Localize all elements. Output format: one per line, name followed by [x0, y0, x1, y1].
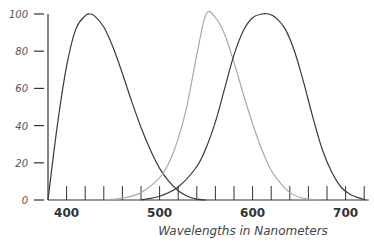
y-tick-label: 100 [9, 9, 28, 20]
spectral-sensitivity-chart: 020406080100 400500600700 Wavelengths in… [0, 0, 374, 247]
curve-series-3 [141, 14, 366, 200]
x-tick-label: 600 [240, 206, 265, 220]
curve-series-2 [104, 11, 318, 200]
curve-series-1 [48, 14, 206, 200]
y-tick-label: 40 [15, 121, 28, 132]
y-tick-label: 0 [22, 195, 28, 206]
y-tick-label: 60 [15, 83, 28, 94]
plot-area [48, 11, 366, 200]
x-axis-title: Wavelengths in Nanometers [158, 224, 328, 238]
x-tick-label: 700 [333, 206, 358, 220]
x-tick-label: 400 [54, 206, 79, 220]
y-tick-label: 80 [15, 46, 28, 57]
y-tick-label: 20 [15, 158, 28, 169]
y-axis: 020406080100 [9, 9, 48, 206]
x-tick-label: 500 [147, 206, 172, 220]
x-axis: 400500600700 [48, 186, 369, 220]
